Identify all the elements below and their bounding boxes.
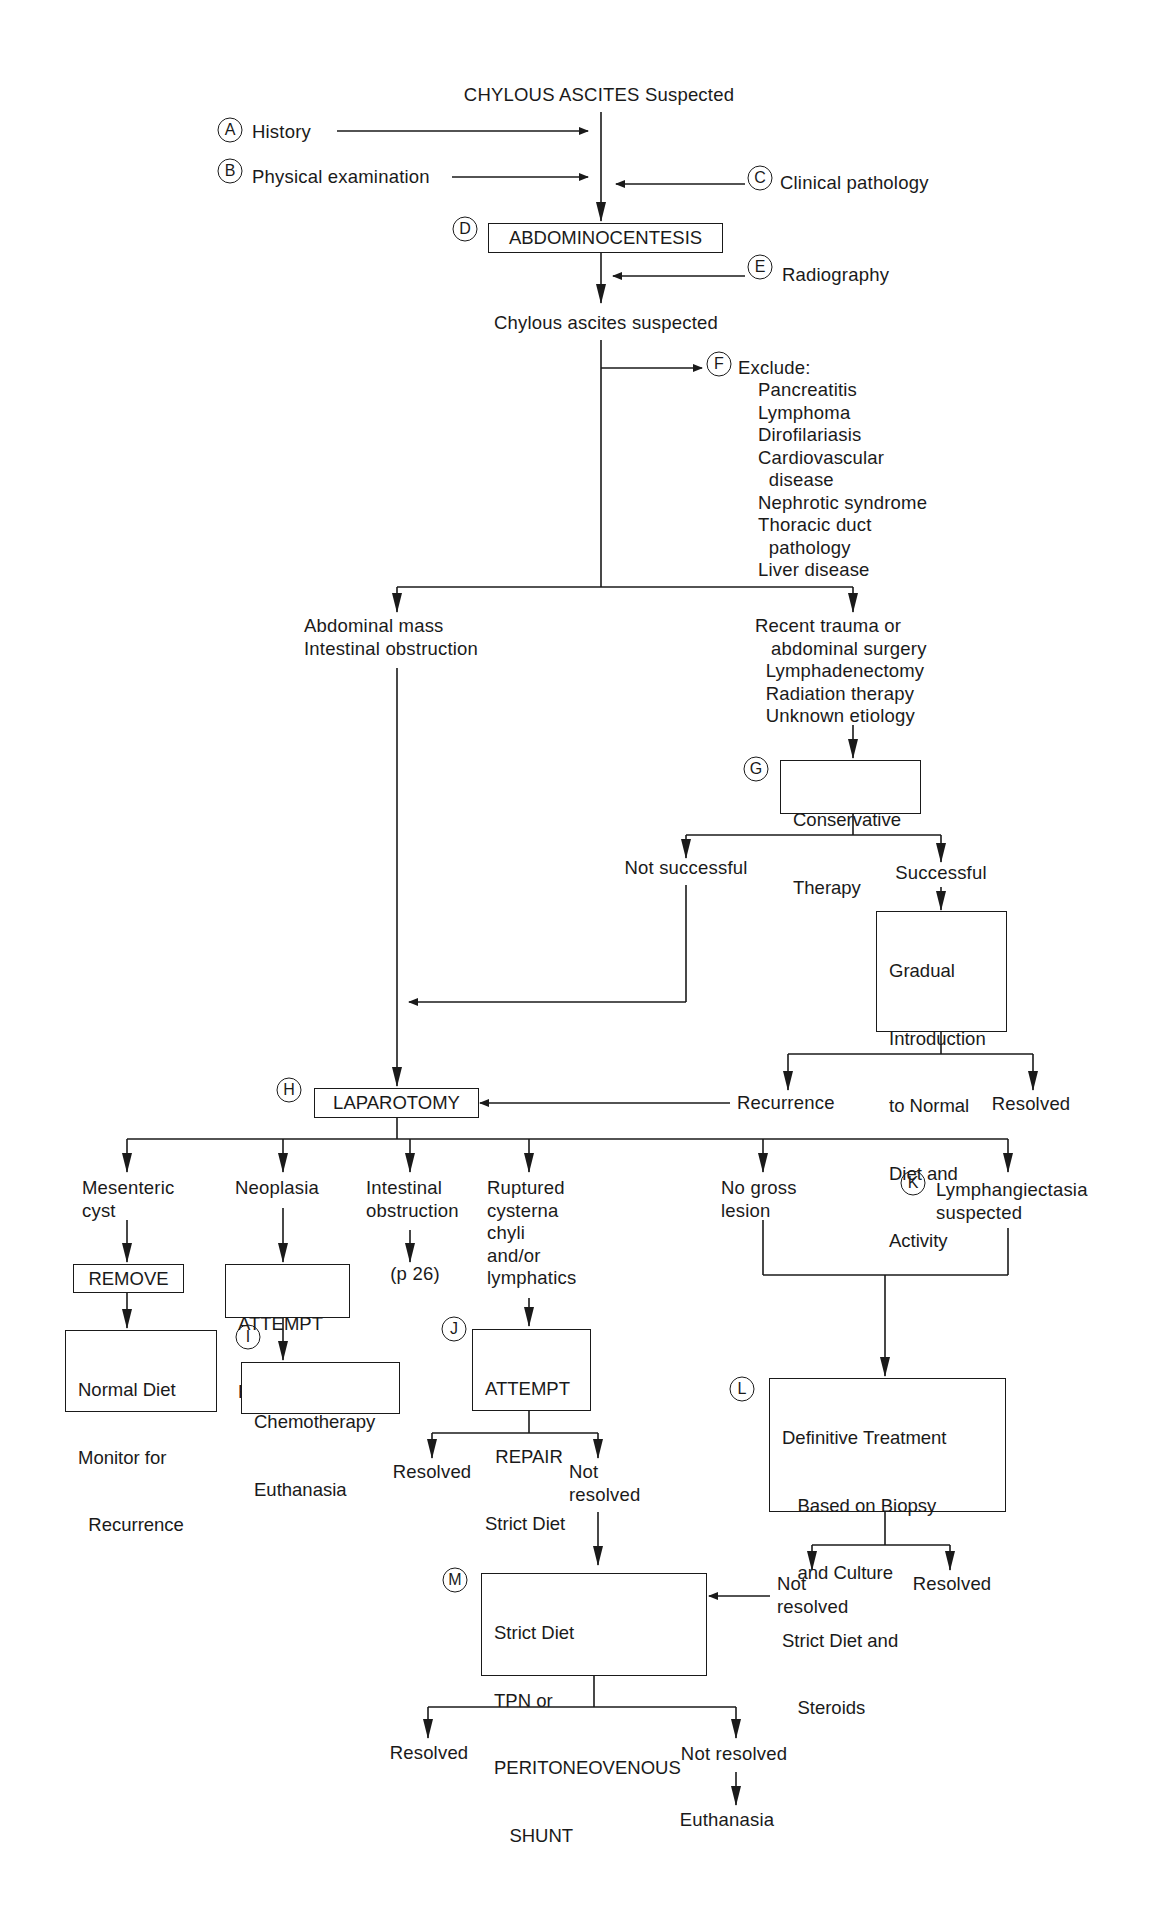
finding-intestinal-obstruction: Intestinal obstruction [366, 1177, 459, 1222]
intestinal-obstruction-text: Intestinal obstruction [304, 638, 478, 661]
abdominal-mass-text: Abdominal mass [304, 615, 478, 638]
marker-i-icon: I [236, 1325, 261, 1350]
finding-no-gross-lesion: No gross lesion [721, 1177, 797, 1222]
finding-lymphangiectasia: Lymphangiectasia suspected [936, 1179, 1088, 1224]
marker-f-icon: F [707, 352, 732, 377]
finding-text: lesion [721, 1200, 797, 1223]
recurrence-label: Recurrence [737, 1092, 835, 1115]
finding-neoplasia: Neoplasia [235, 1177, 319, 1200]
exclude-item: pathology [758, 537, 927, 560]
box-line: Definitive Treatment [782, 1427, 1005, 1450]
finding-text: obstruction [366, 1200, 459, 1223]
exclude-heading: Exclude: [738, 357, 811, 380]
label-line: Not [777, 1573, 849, 1596]
box-line: Based on Biopsy [782, 1495, 1005, 1518]
exclude-item: Pancreatitis [758, 379, 927, 402]
box-line: Euthanasia [254, 1479, 399, 1502]
attempt-removal-box: ATTEMPT REMOVAL [225, 1264, 350, 1318]
exclude-item: Cardiovascular [758, 447, 927, 470]
attempt-repair-box: ATTEMPT REPAIR Strict Diet [472, 1329, 591, 1411]
box-line: PERITONEOVENOUS [494, 1757, 706, 1780]
exclude-item: Liver disease [758, 559, 927, 582]
exclude-item: Dirofilariasis [758, 424, 927, 447]
finding-mesenteric-cyst: Mesenteric cyst [82, 1177, 174, 1222]
definitive-not-resolved-label: Not resolved [777, 1573, 849, 1618]
box-line: Chemotherapy [254, 1411, 399, 1434]
finding-text: cyst [82, 1200, 174, 1223]
box-line: Steroids [782, 1697, 1005, 1720]
start-node-title: CHYLOUS ASCITES Suspected [464, 84, 734, 107]
finding-ruptured-cysterna: Ruptured cysterna chyli and/or lymphatic… [487, 1177, 576, 1290]
radiation-text: Radiation therapy [755, 683, 927, 706]
box-line: Activity [889, 1230, 1006, 1253]
radiography-label: Radiography [782, 264, 889, 287]
exclude-list: Pancreatitis Lymphoma Dirofilariasis Car… [758, 379, 927, 582]
finding-text: suspected [936, 1202, 1088, 1225]
physical-exam-label: Physical examination [252, 166, 430, 189]
gradual-introduction-box: Gradual Introduction to Normal Diet and … [876, 911, 1007, 1032]
box-line: to Normal [889, 1095, 1006, 1118]
finding-text: Neoplasia [235, 1177, 319, 1200]
finding-text: Mesenteric [82, 1177, 174, 1200]
finding-text: No gross [721, 1177, 797, 1200]
lymphadenectomy-text: Lymphadenectomy [755, 660, 927, 683]
repair-resolved-label: Resolved [393, 1461, 472, 1484]
remove-box: REMOVE [73, 1264, 184, 1293]
page-reference: (p 26) [390, 1263, 440, 1286]
marker-l-icon: L [730, 1377, 755, 1402]
shunt-box: Strict Diet TPN or PERITONEOVENOUS SHUNT [481, 1573, 707, 1676]
marker-b-icon: B [218, 159, 243, 184]
marker-h-icon: H [277, 1078, 302, 1103]
left-branch-label: Abdominal mass Intestinal obstruction [304, 615, 478, 660]
definitive-resolved-label: Resolved [913, 1573, 992, 1596]
box-line: Recurrence [78, 1514, 216, 1537]
label-line: resolved [569, 1484, 641, 1507]
box-line: Strict Diet [494, 1622, 706, 1645]
chemotherapy-box: Chemotherapy Euthanasia [241, 1362, 400, 1414]
marker-d-icon: D [453, 217, 478, 242]
exclude-item: Lymphoma [758, 402, 927, 425]
marker-e-icon: E [748, 255, 773, 280]
trauma-text: Recent trauma or [755, 615, 927, 638]
finding-text: cysterna [487, 1200, 576, 1223]
definitive-treatment-box: Definitive Treatment Based on Biopsy and… [769, 1378, 1006, 1512]
marker-k-icon: K [901, 1171, 926, 1196]
box-line: SHUNT [494, 1825, 706, 1848]
not-successful-label: Not successful [624, 857, 747, 880]
exclude-item: Nephrotic syndrome [758, 492, 927, 515]
box-line: Strict Diet and [782, 1630, 1005, 1653]
history-label: History [252, 121, 311, 144]
box-line: Normal Diet [78, 1379, 216, 1402]
box-line: TPN or [494, 1690, 706, 1713]
laparotomy-box: LAPAROTOMY [314, 1088, 479, 1118]
box-line: Gradual [889, 960, 1006, 983]
normal-diet-box: Normal Diet Monitor for Recurrence [65, 1330, 217, 1412]
label-line: resolved [777, 1596, 849, 1619]
surgery-text: abdominal surgery [755, 638, 927, 661]
label-line: Not [569, 1461, 641, 1484]
marker-j-icon: J [442, 1317, 467, 1342]
final-not-resolved-label: Not resolved [681, 1743, 787, 1766]
resolved-top-label: Resolved [992, 1093, 1071, 1116]
finding-text: Ruptured [487, 1177, 576, 1200]
marker-g-icon: G [744, 757, 769, 782]
marker-c-icon: C [748, 166, 773, 191]
final-resolved-label: Resolved [390, 1742, 469, 1765]
finding-text: Lymphangiectasia [936, 1179, 1088, 1202]
box-line: ATTEMPT [485, 1378, 590, 1401]
marker-a-icon: A [218, 118, 243, 143]
box-line: Monitor for [78, 1447, 216, 1470]
successful-label: Successful [895, 862, 986, 885]
finding-text: and/or [487, 1245, 576, 1268]
unknown-etiology-text: Unknown etiology [755, 705, 927, 728]
exclude-item: Thoracic duct [758, 514, 927, 537]
exclude-item: disease [758, 469, 927, 492]
right-branch-label: Recent trauma or abdominal surgery Lymph… [755, 615, 927, 728]
box-line: Conservative [793, 809, 920, 832]
box-line: Strict Diet [485, 1513, 590, 1536]
conservative-therapy-box: Conservative Therapy [780, 760, 921, 814]
euthanasia-label: Euthanasia [680, 1809, 775, 1832]
abdominocentesis-box: ABDOMINOCENTESIS [488, 223, 723, 253]
finding-text: chyli [487, 1222, 576, 1245]
finding-text: lymphatics [487, 1267, 576, 1290]
